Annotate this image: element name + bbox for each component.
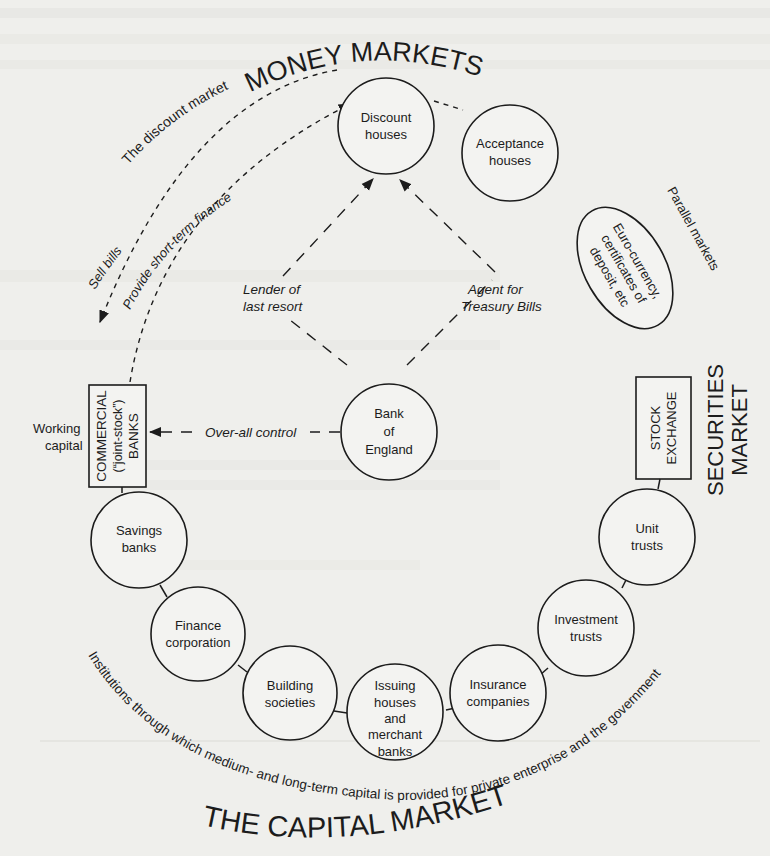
stock-exchange-box[interactable]: STOCK EXCHANGE [636,377,691,479]
svg-text:Building: Building [267,678,313,693]
svg-text:of: of [384,424,395,439]
lender-of-last-resort-arrow [283,179,373,276]
over-all-control-label: Over-all control [205,425,297,440]
svg-text:Issuing: Issuing [374,678,415,693]
svg-text:SECURITIES: SECURITIES [703,364,728,496]
sell-bills-label: Sell bills [85,243,125,291]
svg-text:trusts: trusts [570,629,602,644]
commercial-banks-box[interactable]: COMMERCIAL (“joint-stock”) BANKS [89,385,146,487]
svg-text:Investment: Investment [554,612,618,627]
parallel-markets-label: Parallel markets [664,184,723,273]
svg-text:Acceptance: Acceptance [476,136,544,151]
svg-text:Bank: Bank [374,406,404,421]
uk-financial-markets-diagram: MONEY MARKETS THE CAPITAL MARKET SECURIT… [0,0,770,856]
discount-market-label: The discount market [118,77,230,167]
svg-text:(“joint-stock”): (“joint-stock”) [111,400,125,473]
svg-text:Savings: Savings [116,523,163,538]
svg-text:corporation: corporation [165,635,230,650]
discount-acceptance-link [434,101,463,110]
svg-text:COMMERCIAL: COMMERCIAL [94,390,109,482]
investment-trusts-node[interactable]: Investment trusts [538,580,634,676]
finance-corporation-node[interactable]: Finance corporation [151,587,245,681]
insurance-companies-node[interactable]: Insurance companies [450,645,546,741]
svg-text:capital: capital [45,438,83,453]
svg-text:STOCK: STOCK [648,405,663,450]
euro-currency-ellipse[interactable]: Euro-currency, certificates of deposit, … [557,191,692,345]
savings-banks-node[interactable]: Savings banks [91,492,187,588]
svg-text:societies: societies [265,695,316,710]
svg-text:banks: banks [122,540,157,555]
svg-text:companies: companies [467,694,530,709]
agent-for-treasury-bills-label: Agent for Treasury Bills [461,282,542,314]
acceptance-houses-node[interactable]: Acceptance houses [462,105,558,201]
svg-text:Discount: Discount [361,110,412,125]
unit-trusts-node[interactable]: Unit trusts [599,489,695,585]
svg-text:merchant: merchant [368,727,423,742]
working-capital-label: Working capital [33,421,83,453]
svg-text:houses: houses [365,127,407,142]
svg-text:MARKET: MARKET [727,384,752,476]
svg-text:BANKS: BANKS [126,413,141,459]
svg-text:Agent for: Agent for [467,282,523,297]
provide-finance-label: Provide short-term finance [119,189,234,311]
securities-market-title: SECURITIES MARKET [703,364,752,496]
svg-text:houses: houses [489,153,531,168]
svg-text:Finance: Finance [175,618,221,633]
svg-text:Unit: Unit [635,521,659,536]
agent-for-treasury-bills-arrow [400,180,495,272]
svg-text:EXCHANGE: EXCHANGE [664,391,679,464]
svg-text:houses: houses [374,695,416,710]
svg-text:and: and [384,711,406,726]
svg-text:Treasury Bills: Treasury Bills [461,299,542,314]
svg-text:England: England [365,442,413,457]
svg-text:Working: Working [33,421,80,436]
svg-text:trusts: trusts [631,538,663,553]
svg-text:Lender of: Lender of [243,282,301,297]
lender-of-last-resort-label: Lender of last resort [243,282,304,314]
svg-text:last resort: last resort [243,299,304,314]
issuing-houses-node[interactable]: Issuing houses and merchant banks [347,664,443,760]
svg-text:Insurance: Insurance [469,677,526,692]
discount-houses-node[interactable]: Discount houses [338,78,434,174]
svg-text:banks: banks [378,744,413,759]
building-societies-node[interactable]: Building societies [243,646,337,740]
bank-of-england-node[interactable]: Bank of England [341,384,437,480]
